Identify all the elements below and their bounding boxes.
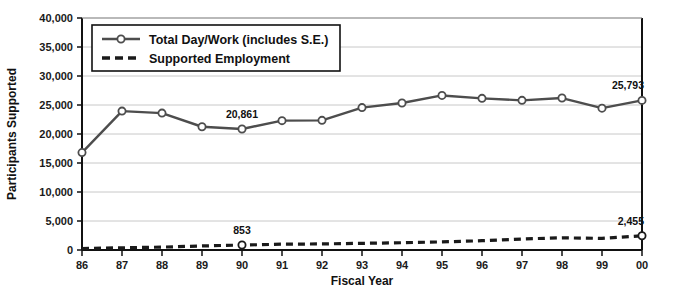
x-axis-tick-labels: 868788899091929394959697989900 <box>76 259 648 271</box>
data-point-label: 2,455 <box>618 215 644 227</box>
x-axis-tick-label: 89 <box>196 259 208 271</box>
data-point-marker <box>638 232 645 239</box>
data-point-label: 25,793 <box>612 79 644 91</box>
x-axis-tick-label: 99 <box>596 259 608 271</box>
y-axis-tick-label: 25,000 <box>39 99 73 111</box>
y-axis-tick-label: 5,000 <box>45 215 73 227</box>
legend-label: Total Day/Work (includes S.E.) <box>149 33 328 47</box>
y-axis-tick-label: 20,000 <box>39 128 73 140</box>
chart-container: 05,00010,00015,00020,00025,00030,00035,0… <box>0 0 675 290</box>
y-axis-tick-label: 15,000 <box>39 157 73 169</box>
x-axis-tick-label: 88 <box>156 259 168 271</box>
x-axis-tick-label: 87 <box>116 259 128 271</box>
x-axis-title: Fiscal Year <box>331 274 394 288</box>
data-point-marker <box>598 105 605 112</box>
data-point-marker <box>518 97 525 104</box>
x-axis-tick-label: 97 <box>516 259 528 271</box>
x-axis-tick-label: 94 <box>396 259 409 271</box>
data-point-marker <box>638 97 645 104</box>
data-point-marker <box>158 110 165 117</box>
x-axis-tick-label: 90 <box>236 259 248 271</box>
data-point-marker <box>358 104 365 111</box>
legend-label: Supported Employment <box>149 52 291 66</box>
y-axis-tick-label: 0 <box>67 244 73 256</box>
y-axis-title: Participants Supported <box>5 68 19 200</box>
y-axis-tick-label: 30,000 <box>39 70 73 82</box>
x-axis-tick-label: 00 <box>636 259 648 271</box>
data-series <box>78 92 645 249</box>
y-axis-tick-label: 10,000 <box>39 186 73 198</box>
data-point-marker <box>238 241 245 248</box>
y-axis-tick-labels: 05,00010,00015,00020,00025,00030,00035,0… <box>39 12 73 256</box>
legend-swatch-marker <box>117 35 124 42</box>
data-point-marker <box>478 95 485 102</box>
chart-legend: Total Day/Work (includes S.E.)Supported … <box>92 25 340 71</box>
data-point-marker <box>318 117 325 124</box>
data-point-marker <box>78 149 85 156</box>
x-axis-tick-label: 91 <box>276 259 288 271</box>
data-point-marker <box>238 125 245 132</box>
data-point-marker <box>438 92 445 99</box>
line-chart: 05,00010,00015,00020,00025,00030,00035,0… <box>0 0 675 290</box>
data-point-label: 20,861 <box>226 108 258 120</box>
y-axis-tick-label: 40,000 <box>39 12 73 24</box>
x-axis-tick-label: 95 <box>436 259 448 271</box>
series-line <box>82 236 642 249</box>
x-axis-tick-label: 96 <box>476 259 488 271</box>
x-axis-tick-label: 92 <box>316 259 328 271</box>
data-point-marker <box>198 123 205 130</box>
y-axis-tick-label: 35,000 <box>39 41 73 53</box>
data-point-marker <box>558 94 565 101</box>
x-axis-tick-label: 86 <box>76 259 88 271</box>
data-point-marker <box>398 99 405 106</box>
x-axis-tick-label: 93 <box>356 259 368 271</box>
data-point-label: 853 <box>233 224 251 236</box>
x-axis-tick-label: 98 <box>556 259 568 271</box>
data-point-marker <box>118 107 125 114</box>
data-point-marker <box>278 117 285 124</box>
